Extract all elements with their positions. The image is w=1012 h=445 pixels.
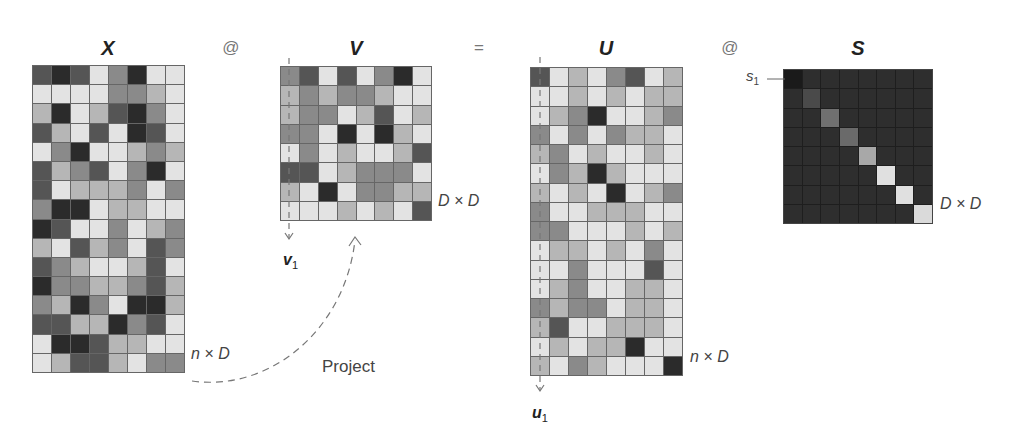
matrix-cell bbox=[52, 239, 70, 257]
matrix-cell bbox=[645, 164, 663, 182]
matrix-cell bbox=[33, 220, 51, 238]
matrix-cell bbox=[413, 163, 431, 181]
matrix-cell bbox=[33, 162, 51, 180]
matrix-cell bbox=[375, 144, 393, 162]
matrix-cell bbox=[840, 70, 858, 88]
matrix-cell bbox=[300, 106, 318, 124]
matrix-cell bbox=[531, 87, 549, 105]
matrix-u-title: U bbox=[599, 38, 613, 58]
matrix-cell bbox=[569, 68, 587, 86]
matrix-cell bbox=[645, 184, 663, 202]
matrix-cell bbox=[52, 85, 70, 103]
matrix-cell bbox=[166, 220, 184, 238]
matrix-cell bbox=[859, 205, 877, 223]
matrix-cell bbox=[33, 143, 51, 161]
matrix-cell bbox=[52, 258, 70, 276]
matrix-x-dim-label: n × D bbox=[191, 346, 230, 362]
matrix-cell bbox=[531, 126, 549, 144]
matrix-cell bbox=[859, 109, 877, 127]
matrix-cell bbox=[71, 162, 89, 180]
matrix-cell bbox=[550, 107, 568, 125]
matrix-cell bbox=[588, 87, 606, 105]
matrix-cell bbox=[626, 261, 644, 279]
matrix-cell bbox=[607, 318, 625, 336]
matrix-cell bbox=[319, 86, 337, 104]
matrix-cell bbox=[109, 335, 127, 353]
matrix-cell bbox=[147, 296, 165, 314]
matrix-cell bbox=[896, 128, 914, 146]
matrix-cell bbox=[896, 186, 914, 204]
matrix-cell bbox=[896, 147, 914, 165]
matrix-x-title: X bbox=[101, 38, 114, 58]
matrix-cell bbox=[626, 338, 644, 356]
matrix-cell bbox=[821, 186, 839, 204]
matrix-cell bbox=[803, 109, 821, 127]
matrix-cell bbox=[319, 125, 337, 143]
matrix-cell bbox=[877, 166, 895, 184]
matrix-cell bbox=[52, 354, 70, 372]
matrix-cell bbox=[550, 357, 568, 375]
matrix-cell bbox=[607, 87, 625, 105]
matrix-cell bbox=[109, 181, 127, 199]
matrix-cell bbox=[645, 280, 663, 298]
matrix-cell bbox=[394, 125, 412, 143]
matrix-cell bbox=[375, 106, 393, 124]
matrix-cell bbox=[626, 164, 644, 182]
matrix-cell bbox=[90, 354, 108, 372]
matrix-cell bbox=[550, 126, 568, 144]
matrix-cell bbox=[319, 144, 337, 162]
matrix-cell bbox=[52, 335, 70, 353]
matrix-cell bbox=[803, 89, 821, 107]
matrix-cell bbox=[784, 89, 802, 107]
matrix-cell bbox=[109, 354, 127, 372]
matrix-cell bbox=[90, 296, 108, 314]
matrix-cell bbox=[319, 67, 337, 85]
matrix-cell bbox=[664, 280, 682, 298]
matrix-cell bbox=[896, 166, 914, 184]
matrix-cell bbox=[52, 124, 70, 142]
matrix-cell bbox=[550, 87, 568, 105]
matrix-cell bbox=[569, 299, 587, 317]
matrix-cell bbox=[569, 145, 587, 163]
matrix-cell bbox=[569, 261, 587, 279]
matrix-cell bbox=[33, 239, 51, 257]
matrix-cell bbox=[166, 181, 184, 199]
matrix-cell bbox=[626, 241, 644, 259]
matrix-cell bbox=[52, 296, 70, 314]
matrix-cell bbox=[588, 145, 606, 163]
matrix-cell bbox=[664, 126, 682, 144]
matrix-cell bbox=[626, 299, 644, 317]
matrix-cell bbox=[840, 147, 858, 165]
matrix-cell bbox=[645, 203, 663, 221]
matrix-cell bbox=[413, 202, 431, 220]
matrix-cell bbox=[550, 203, 568, 221]
matrix-cell bbox=[531, 338, 549, 356]
matrix-cell bbox=[626, 145, 644, 163]
matrix-cell bbox=[914, 205, 932, 223]
matrix-cell bbox=[588, 184, 606, 202]
vector-u1-label: u1 bbox=[532, 405, 548, 424]
matrix-cell bbox=[319, 106, 337, 124]
matrix-cell bbox=[569, 126, 587, 144]
matrix-cell bbox=[645, 87, 663, 105]
matrix-cell bbox=[90, 181, 108, 199]
matrix-cell bbox=[645, 357, 663, 375]
matrix-cell bbox=[531, 261, 549, 279]
matrix-cell bbox=[914, 186, 932, 204]
matrix-cell bbox=[166, 258, 184, 276]
matrix-cell bbox=[375, 125, 393, 143]
matrix-cell bbox=[664, 357, 682, 375]
matrix-cell bbox=[394, 67, 412, 85]
matrix-cell bbox=[33, 277, 51, 295]
matrix-cell bbox=[33, 296, 51, 314]
matrix-cell bbox=[626, 203, 644, 221]
matrix-cell bbox=[109, 85, 127, 103]
matrix-cell bbox=[166, 335, 184, 353]
matrix-cell bbox=[803, 186, 821, 204]
matrix-cell bbox=[52, 143, 70, 161]
matrix-cell bbox=[914, 70, 932, 88]
matrix-cell bbox=[281, 183, 299, 201]
matrix-cell bbox=[569, 318, 587, 336]
matrix-u bbox=[530, 67, 683, 376]
matrix-cell bbox=[52, 104, 70, 122]
